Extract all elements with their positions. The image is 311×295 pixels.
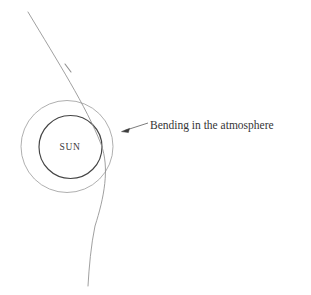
diagram-canvas: SUN Bending in the atmosphere <box>0 0 311 295</box>
astronomy-diagram: SUN Bending in the atmosphere <box>0 0 311 295</box>
sun-label: SUN <box>60 142 81 152</box>
background <box>0 0 311 295</box>
annotation-label: Bending in the atmosphere <box>150 119 274 132</box>
